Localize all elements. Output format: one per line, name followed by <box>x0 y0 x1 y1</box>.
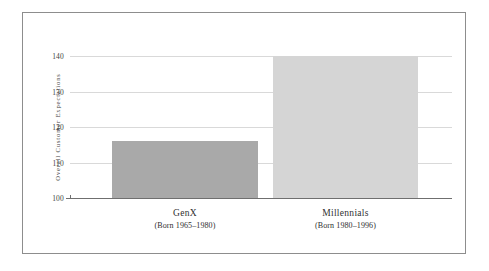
y-axis-title-holder: Overall Customer Expectations <box>30 56 44 198</box>
y-tick-label-120: 120 <box>52 123 64 132</box>
x-category-genx-name: GenX <box>112 208 258 218</box>
y-tick-label-110: 110 <box>52 158 64 167</box>
x-category-millennials-name: Millennials <box>273 208 418 218</box>
y-tick-label-130: 130 <box>52 87 64 96</box>
chart-figure: Overall Customer Expectations 140 130 12… <box>0 0 489 271</box>
y-tick-label-140: 140 <box>52 52 64 61</box>
bar-millennials <box>273 56 418 198</box>
x-category-millennials-sublabel: (Born 1980–1996) <box>273 221 418 230</box>
x-category-genx: GenX (Born 1965–1980) <box>112 208 258 230</box>
bar-genx <box>112 141 258 198</box>
x-category-genx-sublabel: (Born 1965–1980) <box>112 221 258 230</box>
x-axis-line <box>70 198 452 199</box>
plot-area <box>70 56 452 198</box>
x-category-millennials: Millennials (Born 1980–1996) <box>273 208 418 230</box>
y-tick-label-100: 100 <box>52 194 64 203</box>
